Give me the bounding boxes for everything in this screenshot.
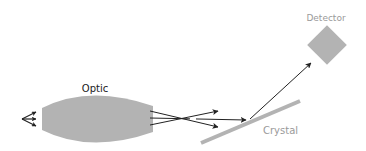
source-rays (22, 112, 36, 126)
source-ray-up (22, 112, 36, 119)
optic-lens (42, 95, 153, 142)
crystal-label: Crystal (263, 125, 298, 136)
detector-label: Detector (306, 13, 346, 23)
diagram-canvas: Optic Crystal Detector (0, 0, 366, 151)
crystal (201, 101, 300, 143)
source-ray-down (22, 119, 36, 126)
ray-center (150, 118, 246, 120)
optic-label: Optic (82, 83, 108, 94)
focused-rays (150, 111, 246, 127)
detector (307, 25, 347, 65)
